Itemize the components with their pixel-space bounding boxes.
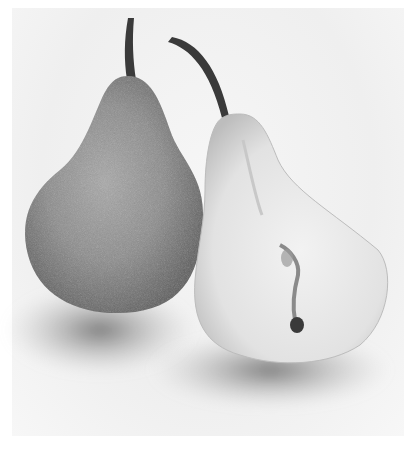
pears-photo: Black and white photograph of two pears:… [0, 0, 413, 449]
pears-illustration [0, 0, 413, 449]
whole-pear-stem [125, 18, 136, 80]
halved-pear-stem [168, 37, 229, 118]
whole-pear [25, 18, 203, 313]
halved-pear-seed [290, 317, 304, 333]
